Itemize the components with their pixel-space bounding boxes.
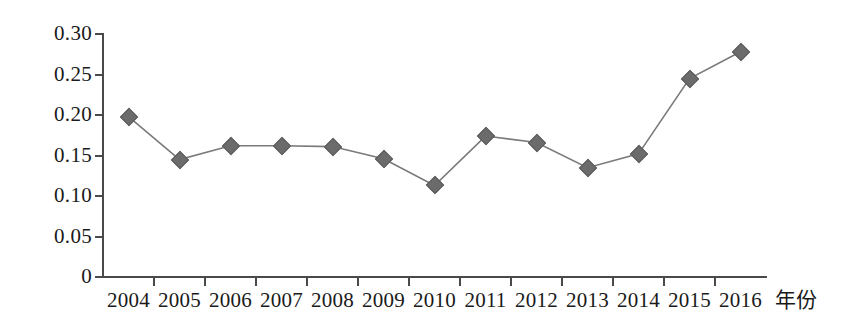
- data-point-marker: [731, 43, 749, 61]
- data-point-marker: [476, 127, 494, 145]
- data-point-marker: [578, 158, 596, 176]
- y-axis-tick-label: 0: [30, 266, 92, 287]
- y-axis-tick-label: 0.05: [30, 226, 92, 247]
- y-axis-tick-label: 0.25: [30, 64, 92, 85]
- x-axis-line: [102, 276, 767, 278]
- x-axis-tick-label: 2016: [711, 288, 771, 312]
- x-axis-tick: [612, 277, 614, 286]
- y-axis-tick-label: 0.10: [30, 185, 92, 206]
- y-axis-tick: [95, 236, 103, 238]
- data-point-marker: [680, 69, 698, 87]
- data-point-marker: [170, 150, 188, 168]
- series-polyline: [129, 52, 741, 186]
- x-axis-title: 年份: [775, 288, 817, 312]
- y-axis-tick-label: 0.20: [30, 104, 92, 125]
- x-axis-tick: [714, 277, 716, 286]
- x-axis-tick: [306, 277, 308, 286]
- series-line: [0, 0, 858, 321]
- y-axis-tick: [95, 74, 103, 76]
- data-point-marker: [119, 107, 137, 125]
- x-axis-tick: [663, 277, 665, 286]
- x-axis-tick: [357, 277, 359, 286]
- x-axis-tick: [459, 277, 461, 286]
- data-point-marker: [272, 137, 290, 155]
- y-axis-tick-label: 0.30: [30, 23, 92, 44]
- x-axis-tick: [510, 277, 512, 286]
- y-axis-tick: [95, 155, 103, 157]
- y-axis-tick: [95, 276, 103, 278]
- x-axis-tick: [561, 277, 563, 286]
- x-axis-tick: [204, 277, 206, 286]
- data-point-marker: [425, 176, 443, 194]
- data-point-marker: [221, 137, 239, 155]
- x-axis-tick: [408, 277, 410, 286]
- x-axis-tick: [153, 277, 155, 286]
- x-axis-tick: [255, 277, 257, 286]
- data-point-marker: [374, 150, 392, 168]
- y-axis-tick-label: 0.15: [30, 145, 92, 166]
- line-chart: 0.300.250.200.150.100.050 20042005200620…: [0, 0, 858, 321]
- y-axis-tick: [95, 195, 103, 197]
- data-point-marker: [629, 145, 647, 163]
- y-axis-tick: [95, 33, 103, 35]
- y-axis-tick: [95, 114, 103, 116]
- data-point-marker: [323, 137, 341, 155]
- data-point-marker: [527, 133, 545, 151]
